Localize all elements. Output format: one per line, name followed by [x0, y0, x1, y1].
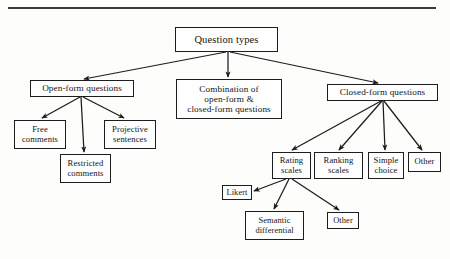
node-simple-choice[interactable]: Simplechoice — [368, 152, 404, 179]
edge-closed-form-to-other — [384, 101, 422, 150]
edge-rating-to-likert — [254, 179, 286, 191]
edge-rating-to-other — [292, 179, 339, 210]
edge-rating-to-semantic — [274, 179, 289, 209]
node-other-closed-form[interactable]: Other — [408, 152, 441, 172]
node-other-closed-form-label: Other — [411, 157, 438, 167]
node-restricted-comments[interactable]: Restrictedcomments — [60, 154, 111, 183]
node-free-comments-label: Freecomments — [17, 125, 63, 144]
node-open-form-questions[interactable]: Open-form questions — [30, 80, 134, 97]
node-projective-sentences-label: Projectivesentences — [107, 125, 153, 144]
node-combination[interactable]: Combination ofopen-form &closed-form que… — [176, 79, 282, 119]
edge-open-form-to-projective — [83, 97, 124, 118]
node-closed-form-questions[interactable]: Closed-form questions — [327, 84, 438, 101]
node-semantic-differential[interactable]: Semanticdifferential — [245, 211, 304, 240]
edge-open-form-to-free-comments — [42, 97, 80, 118]
node-other-rating-scale[interactable]: Other — [327, 212, 359, 229]
node-likert[interactable]: Likert — [222, 185, 252, 200]
node-open-form-questions-label: Open-form questions — [33, 83, 131, 93]
node-other-rating-scale-label: Other — [330, 216, 356, 225]
node-question-types-label: Question types — [178, 34, 275, 46]
figure-canvas: Question types Open-form questions Combi… — [0, 0, 450, 259]
node-question-types[interactable]: Question types — [175, 27, 278, 52]
edge-closed-form-to-simple-choice — [383, 101, 385, 150]
node-rating-scales[interactable]: Ratingscales — [272, 152, 311, 179]
node-projective-sentences[interactable]: Projectivesentences — [104, 120, 156, 149]
edge-open-form-to-restricted — [81, 97, 84, 152]
node-combination-label: Combination ofopen-form &closed-form que… — [179, 84, 279, 115]
node-free-comments[interactable]: Freecomments — [14, 120, 66, 149]
edge-closed-form-to-ranking — [339, 101, 382, 150]
node-rating-scales-label: Ratingscales — [275, 156, 308, 175]
node-likert-label: Likert — [225, 188, 249, 197]
node-ranking-scales[interactable]: Rankingscales — [314, 152, 363, 179]
node-restricted-comments-label: Restrictedcomments — [63, 159, 108, 178]
node-simple-choice-label: Simplechoice — [371, 156, 401, 175]
edge-closed-form-to-rating — [292, 101, 381, 150]
node-closed-form-questions-label: Closed-form questions — [330, 87, 435, 97]
node-ranking-scales-label: Rankingscales — [317, 156, 360, 175]
node-semantic-differential-label: Semanticdifferential — [248, 216, 301, 235]
edge-question-types-to-open-form — [84, 52, 226, 79]
